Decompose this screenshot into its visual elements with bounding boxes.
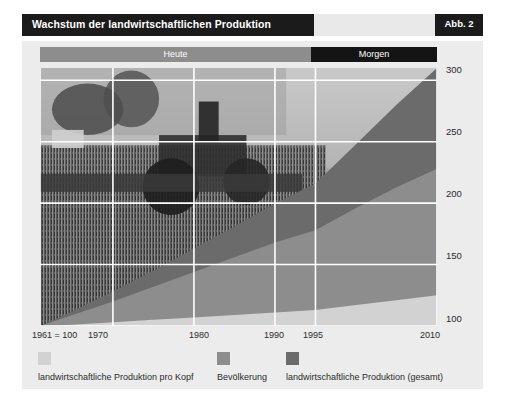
figure-container: Wachstum der landwirtschaftlichen Produk…: [0, 0, 505, 417]
legend-label-gesamt: landwirtschaftliche Produktion (gesamt): [286, 372, 443, 382]
legend-swatch-bevoelkerung: [217, 352, 230, 365]
legend-swatch-pro-kopf: [38, 352, 51, 365]
legend-swatch-gesamt: [286, 352, 299, 365]
legend-label-pro-kopf: landwirtschaftliche Produktion pro Kopf: [38, 372, 194, 382]
chart-legend: landwirtschaftliche Produktion pro Kopf …: [0, 0, 505, 417]
legend-label-bevoelkerung: Bevölkerung: [217, 372, 267, 382]
